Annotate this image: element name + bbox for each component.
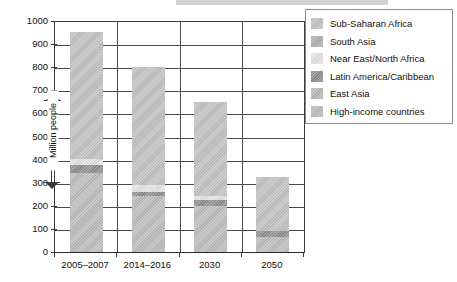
bar-segment xyxy=(132,196,165,253)
y-tick-label: 500 xyxy=(6,132,48,142)
plot-area xyxy=(54,21,305,253)
bar-segment xyxy=(132,192,165,197)
bar-chart-figure: 10009008007006005004003002001000 2005–20… xyxy=(0,0,457,282)
bar-2005-2007[interactable] xyxy=(70,22,103,253)
y-tick-label: 700 xyxy=(6,85,48,95)
legend-label: Near East/North Africa xyxy=(330,53,425,64)
y-tick-label: 0 xyxy=(6,247,48,257)
bar-segment xyxy=(256,231,289,237)
x-tick-mark xyxy=(54,252,55,257)
bar-segment xyxy=(70,173,103,253)
bar-2050[interactable] xyxy=(256,22,289,253)
legend-item-south-asia[interactable]: South Asia xyxy=(311,33,452,50)
million-people-annotation: Million people xyxy=(44,94,60,189)
legend-swatch-icon xyxy=(311,106,323,117)
legend-label: Sub-Saharan Africa xyxy=(330,18,412,29)
x-tick-label: 2050 xyxy=(232,259,312,270)
bar-segment xyxy=(132,185,165,192)
legend-swatch-icon xyxy=(311,71,323,82)
bar-2030[interactable] xyxy=(194,22,227,253)
bar-segment xyxy=(256,177,289,231)
legend-item-near-east-north-africa[interactable]: Near East/North Africa xyxy=(311,50,452,67)
y-axis-labels: 10009008007006005004003002001000 xyxy=(3,0,48,282)
vertical-gridline xyxy=(117,22,118,253)
legend-item-latin-america-caribbean[interactable]: Latin America/Caribbean xyxy=(311,68,452,85)
x-tick-mark xyxy=(241,252,242,257)
million-people-label: Million people xyxy=(48,91,59,171)
vertical-gridline xyxy=(180,22,181,253)
legend-label: High-income countries xyxy=(330,106,425,117)
legend-swatch-icon xyxy=(311,36,323,47)
legend-swatch-icon xyxy=(311,18,323,29)
arrow-head-down-icon xyxy=(45,182,59,189)
legend-label: South Asia xyxy=(330,36,375,47)
bar-segment xyxy=(194,200,227,205)
bar-2014-2016[interactable] xyxy=(132,22,165,253)
legend-swatch-icon xyxy=(311,53,323,64)
bar-segment xyxy=(256,237,289,253)
y-tick-label: 200 xyxy=(6,201,48,211)
legend-item-east-asia[interactable]: East Asia xyxy=(311,85,452,102)
chart-legend: Sub-Saharan AfricaSouth AsiaNear East/No… xyxy=(305,9,453,124)
y-tick-label: 300 xyxy=(6,178,48,188)
x-tick-mark xyxy=(303,252,304,257)
legend-swatch-icon xyxy=(311,88,323,99)
legend-item-high-income-countries[interactable]: High-income countries xyxy=(311,103,452,120)
x-tick-mark xyxy=(179,252,180,257)
arrow-cap-bottom xyxy=(44,182,60,183)
bar-segment xyxy=(194,206,227,253)
x-tick-mark xyxy=(116,252,117,257)
bar-segment xyxy=(194,196,227,200)
legend-label: East Asia xyxy=(330,88,370,99)
y-tick-label: 400 xyxy=(6,155,48,165)
y-tick-label: 100 xyxy=(6,224,48,234)
legend-item-sub-saharan-africa[interactable]: Sub-Saharan Africa xyxy=(311,15,452,32)
y-tick-label: 900 xyxy=(6,39,48,49)
bar-segment xyxy=(70,159,103,165)
bar-segment xyxy=(70,32,103,159)
bar-segment xyxy=(194,102,227,197)
legend-label: Latin America/Caribbean xyxy=(330,71,434,82)
y-tick-label: 1000 xyxy=(6,16,48,26)
y-tick-label: 600 xyxy=(6,108,48,118)
bar-segment xyxy=(70,165,103,173)
y-tick-label: 800 xyxy=(6,62,48,72)
vertical-gridline xyxy=(242,22,243,253)
bar-segment xyxy=(132,67,165,185)
